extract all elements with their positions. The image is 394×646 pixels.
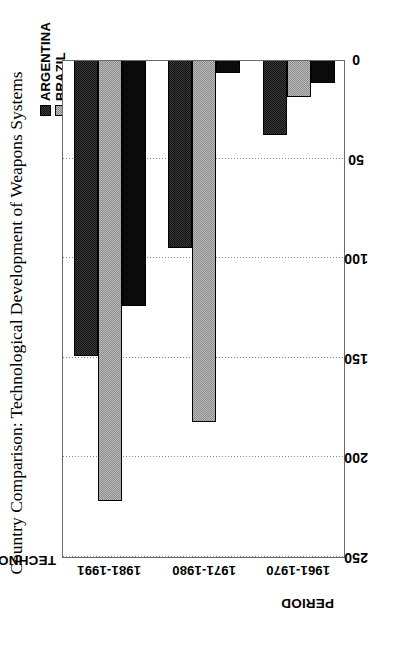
category-axis-title: PERIOD [265, 596, 351, 611]
value-tick-250: 250 [344, 550, 368, 566]
value-tick-200: 200 [344, 450, 368, 466]
chart-canvas: Country Comparison: Technological Develo… [0, 0, 394, 646]
value-axis-ticks: 250200150100500 [348, 60, 368, 558]
value-tick-100: 100 [344, 251, 368, 267]
plot-inner [63, 61, 344, 557]
plot-area [62, 60, 345, 558]
bar-brazil-1971-1980[interactable] [192, 61, 216, 422]
bar-group-1971-1980 [157, 61, 251, 557]
bar-group-1961-1970 [252, 61, 344, 557]
category-tick-1971-1980: 1971-1980 [172, 563, 236, 578]
bar-argentina-1971-1980[interactable] [168, 61, 192, 248]
argentina-swatch-icon [40, 105, 51, 116]
bar-group-1981-1991 [63, 61, 157, 557]
bar-chile-1981-1991[interactable] [122, 61, 146, 306]
value-axis-title: TECHNOLOGY MERIT INDEX [0, 553, 56, 568]
bar-argentina-1961-1970[interactable] [263, 61, 287, 135]
category-tick-1981-1991: 1981-1991 [77, 563, 141, 578]
bar-chile-1961-1970[interactable] [311, 61, 335, 83]
bar-brazil-1961-1970[interactable] [287, 61, 311, 97]
chart-title: Country Comparison: Technological Develo… [6, 0, 27, 646]
bar-brazil-1981-1991[interactable] [98, 61, 122, 501]
bar-chile-1971-1980[interactable] [216, 61, 240, 73]
bar-argentina-1981-1991[interactable] [74, 61, 98, 356]
category-tick-1961-1970: 1961-1970 [266, 563, 330, 578]
legend-label-argentina: ARGENTINA [40, 22, 51, 101]
value-tick-0: 0 [352, 52, 360, 68]
value-tick-50: 50 [348, 152, 364, 168]
legend-item-argentina[interactable]: ARGENTINA [40, 22, 51, 116]
value-tick-150: 150 [344, 351, 368, 367]
